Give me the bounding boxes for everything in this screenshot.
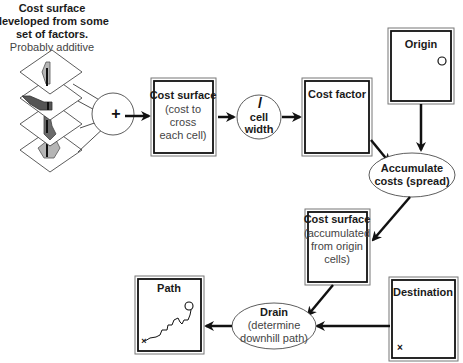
accumulated-surface-box: Cost surface (accumulated from origin ce… (304, 209, 371, 285)
accumulated-line-3: cells) (324, 253, 350, 265)
workflow-diagram: Cost surface developed from some set of … (0, 0, 463, 363)
intro-caption: Cost surface developed from some set of … (0, 2, 109, 53)
divide-line-2: width (244, 123, 274, 135)
path-box: Path × (135, 276, 204, 354)
arrow-accumulated-to-drain (308, 285, 333, 315)
cost-surface-line-3: each cell) (159, 129, 206, 141)
accumulated-line-1: (accumulated (304, 227, 370, 239)
accumulated-title: Cost surface (304, 213, 371, 225)
origin-box: Origin (388, 28, 454, 104)
cost-factor-title: Cost factor (308, 88, 367, 100)
cost-factor-box: Cost factor (302, 78, 372, 156)
path-title: Path (157, 282, 181, 294)
destination-box: Destination × (389, 277, 458, 361)
cost-surface-line-1: (cost to (165, 103, 201, 115)
drain-ellipse: Drain (determine downhill path) (232, 303, 316, 349)
origin-marker-icon (438, 57, 446, 65)
intro-line-2: developed from some (0, 15, 109, 27)
cost-surface-title: Cost surface (150, 89, 217, 101)
origin-title: Origin (405, 38, 438, 50)
drain-title: Drain (260, 306, 288, 318)
path-destination-icon: × (141, 336, 146, 346)
accumulated-line-2: from origin (311, 240, 363, 252)
destination-marker-icon: × (397, 342, 403, 353)
cost-surface-box: Cost surface (cost to cross each cell) (150, 78, 217, 156)
plus-icon: + (111, 105, 120, 122)
arrow-accumulate-to-accumulated-surface (373, 197, 410, 240)
destination-title: Destination (393, 286, 453, 298)
accumulate-ellipse: Accumulate costs (spread) (369, 153, 455, 197)
path-origin-icon (185, 302, 193, 310)
intro-line-1: Cost surface (19, 2, 86, 14)
divide-operator: / cell width (237, 94, 281, 139)
accumulate-line-2: costs (spread) (374, 175, 450, 187)
drain-line-2: downhill path) (240, 332, 308, 344)
factor-layer-stack (20, 50, 82, 172)
cost-surface-line-2: cross (170, 116, 197, 128)
factor-layer-1 (20, 50, 82, 94)
add-operator: + (92, 93, 134, 135)
intro-line-3: set of factors. (16, 28, 88, 40)
divide-line-1: cell (250, 111, 268, 123)
accumulate-line-1: Accumulate (381, 162, 443, 174)
drain-line-1: (determine (248, 319, 301, 331)
